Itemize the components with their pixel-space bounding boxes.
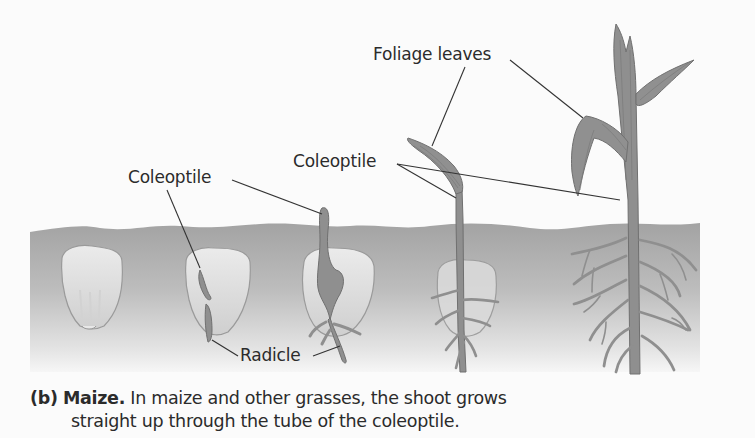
label-foliage-leaves: Foliage leaves (373, 44, 491, 64)
caption-line-1: In maize and other grasses, the shoot gr… (130, 388, 506, 408)
label-coleoptile-left: Coleoptile (128, 167, 211, 187)
figure-caption: (b) Maize. In maize and other grasses, t… (30, 387, 570, 433)
caption-part-label: (b) (30, 388, 58, 408)
label-coleoptile-right: Coleoptile (293, 151, 376, 171)
label-radicle: Radicle (240, 345, 301, 365)
caption-title: Maize. (63, 388, 125, 408)
caption-line-2: straight up through the tube of the cole… (30, 410, 570, 433)
figure-illustration (0, 0, 755, 438)
maize-germination-figure: ⁠ (0, 0, 755, 438)
